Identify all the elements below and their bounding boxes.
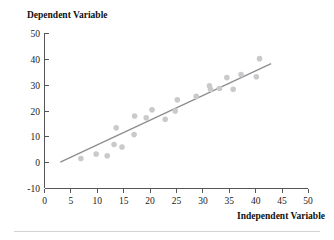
data-point <box>143 115 149 121</box>
data-point <box>230 86 236 92</box>
data-point <box>113 125 119 131</box>
y-tick-label: 20 <box>31 107 41 117</box>
x-tick-label: 30 <box>198 196 208 206</box>
scatter-points-group <box>78 56 262 161</box>
data-point <box>119 144 125 150</box>
data-point <box>104 153 110 159</box>
data-point <box>111 142 117 148</box>
x-axis-tick-labels: 0 5 10 15 20 25 30 35 40 45 50 <box>42 196 313 206</box>
y-tick-label: 50 <box>31 29 41 39</box>
x-tick-label: 5 <box>69 196 74 206</box>
data-point <box>162 117 168 123</box>
x-axis-ticks <box>45 189 309 194</box>
data-point <box>93 151 99 157</box>
y-tick-label: 40 <box>31 55 41 65</box>
data-point <box>254 74 260 80</box>
x-tick-label: 35 <box>225 196 235 206</box>
x-tick-label: 15 <box>119 196 129 206</box>
chart-canvas: Dependent Variable 50 40 30 20 10 0 -10 <box>0 0 334 240</box>
y-tick-label: 10 <box>31 132 41 142</box>
data-point <box>208 86 214 92</box>
data-point <box>78 156 84 162</box>
x-tick-label: 25 <box>172 196 182 206</box>
y-tick-label: 0 <box>35 158 40 168</box>
x-axis-title: Independent Variable <box>237 211 325 221</box>
data-point <box>217 86 223 92</box>
x-tick-label: 0 <box>42 196 47 206</box>
y-tick-label: -10 <box>27 184 40 194</box>
data-point <box>193 93 199 99</box>
x-tick-label: 50 <box>303 196 313 206</box>
fitted-regression-line <box>60 64 271 162</box>
y-tick-label: 30 <box>31 81 41 91</box>
x-tick-label: 20 <box>145 196 155 206</box>
data-point <box>132 113 138 119</box>
data-point <box>131 132 137 138</box>
y-axis-tick-labels: 50 40 30 20 10 0 -10 <box>27 29 40 194</box>
y-axis-title: Dependent Variable <box>27 10 108 20</box>
data-point <box>238 72 244 78</box>
data-point <box>257 56 263 62</box>
data-point <box>172 108 178 114</box>
data-point <box>224 75 230 81</box>
scatter-plot-figure: Dependent Variable 50 40 30 20 10 0 -10 <box>0 0 334 240</box>
x-tick-label: 10 <box>93 196 103 206</box>
data-point <box>175 97 181 103</box>
data-point <box>149 107 155 113</box>
x-tick-label: 45 <box>277 196 287 206</box>
y-axis-ticks <box>45 34 50 189</box>
x-tick-label: 40 <box>251 196 261 206</box>
